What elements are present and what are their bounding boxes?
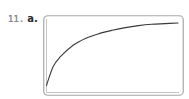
exercise-part: a. (27, 13, 38, 24)
graph-figure (43, 15, 184, 96)
graph-frame (44, 16, 184, 96)
exercise-label: 11.a. (8, 13, 38, 25)
plot-curve (47, 23, 179, 85)
exercise-number: 11. (8, 14, 24, 24)
graph-svg (43, 15, 184, 96)
